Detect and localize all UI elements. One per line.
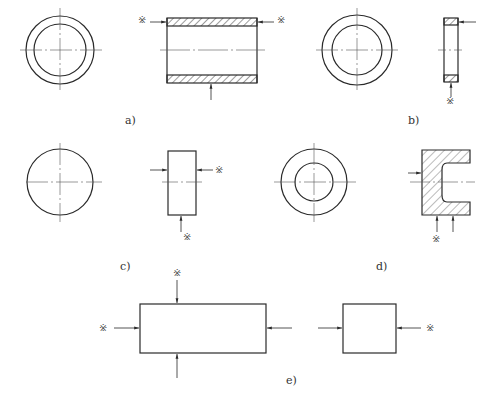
panel-d-section-view [408,150,475,232]
panel-b-section-view [438,18,476,97]
panel-b-end-view [316,8,400,92]
panel-e-side-view [318,304,421,353]
panel-label-b: b) [408,114,419,127]
panel-label-a: a) [125,114,136,127]
reference-mark-icon: ※ [138,15,146,25]
panel-a-end-view [20,8,102,92]
reference-mark-icon: ※ [277,15,285,25]
reference-mark-icon: ※ [99,323,107,333]
reference-mark-icon: ※ [215,165,223,175]
reference-mark-icon: ※ [446,96,454,106]
panel-label-c: c) [120,260,130,273]
reference-mark-icon: ※ [173,268,181,278]
panel-d-end-view [274,143,356,222]
reference-mark-icon: ※ [183,232,191,242]
technical-drawing [0,0,493,405]
reference-mark-icon: ※ [432,234,440,244]
panel-c-side-view [150,151,213,232]
reference-mark-icon: ※ [426,323,434,333]
panel-c-end-view [26,143,102,222]
panel-e-front-view [114,280,292,378]
panel-label-d: d) [376,260,387,273]
panel-label-e: e) [286,374,297,387]
panel-a-section-view [150,18,274,100]
